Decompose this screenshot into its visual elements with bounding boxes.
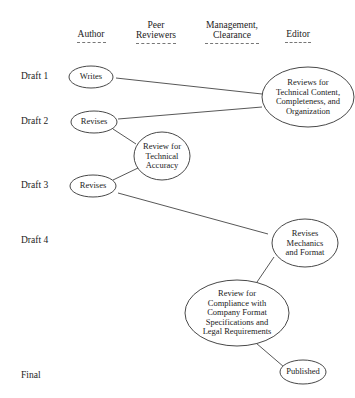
connector-line [118, 107, 262, 119]
connector-line [113, 168, 138, 180]
connector-line [118, 193, 268, 234]
connector-line [255, 257, 274, 285]
node-revises-draft2: Revises [81, 117, 107, 127]
node-editor-revises-mechanics: Revises Mechanics and Format [286, 229, 325, 258]
node-revises-draft3: Revises [80, 181, 106, 191]
node-published: Published [286, 367, 320, 377]
node-writes: Writes [80, 72, 102, 82]
connector-line [113, 129, 136, 144]
flow-diagram [0, 0, 355, 398]
connector-line [116, 78, 262, 94]
connector-line [256, 343, 284, 367]
node-editor-review: Reviews for Technical Content, Completen… [276, 78, 340, 116]
node-review-technical-accuracy: Review for Technical Accuracy [143, 142, 181, 171]
node-compliance-review: Review for Compliance with Company Forma… [203, 289, 272, 337]
